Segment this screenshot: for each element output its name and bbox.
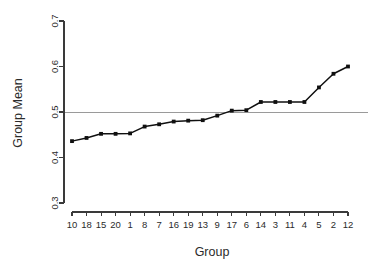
x-tick-label: 14 — [256, 219, 267, 230]
x-tick-label: 16 — [168, 219, 179, 230]
group-mean-line-chart: 0.30.40.50.60.7 101815201871619139176143… — [0, 0, 372, 269]
data-point-marker — [85, 136, 89, 140]
x-tick-label: 2 — [331, 219, 336, 230]
x-tick-label: 13 — [197, 219, 208, 230]
data-point-marker — [186, 119, 190, 123]
data-point-marker — [288, 100, 292, 104]
data-point-marker — [346, 65, 350, 69]
y-tick-label: 0.3 — [49, 196, 60, 209]
x-tick-label: 19 — [183, 219, 194, 230]
data-point-marker — [317, 86, 321, 90]
x-axis-title: Group — [195, 245, 230, 259]
data-point-marker — [273, 100, 277, 104]
y-tick-label: 0.4 — [49, 151, 60, 164]
x-tick-label: 18 — [81, 219, 92, 230]
x-tick-label: 11 — [285, 219, 295, 230]
x-tick-label: 7 — [157, 219, 162, 230]
data-point-marker — [201, 118, 205, 122]
x-tick-label: 3 — [273, 219, 278, 230]
y-tick-label: 0.6 — [49, 60, 60, 73]
data-point-marker — [172, 120, 176, 124]
data-point-marker — [332, 72, 336, 76]
data-point-marker — [114, 132, 118, 136]
data-point-marker — [244, 108, 248, 112]
data-point-marker — [70, 139, 74, 143]
data-point-marker — [259, 100, 263, 104]
x-tick-label: 9 — [215, 219, 220, 230]
data-point-marker — [157, 122, 161, 126]
data-point-marker — [143, 125, 147, 129]
y-tick-label: 0.7 — [49, 14, 60, 27]
data-point-marker — [215, 114, 219, 118]
data-point-marker — [230, 109, 234, 113]
x-tick-label: 5 — [316, 219, 321, 230]
x-tick-label: 17 — [227, 219, 238, 230]
x-tick-label: 6 — [244, 219, 249, 230]
data-point-marker — [303, 100, 307, 104]
x-tick-label: 10 — [67, 219, 78, 230]
y-axis-title: Group Mean — [11, 78, 25, 148]
x-tick-label: 8 — [142, 219, 147, 230]
x-tick-label: 4 — [302, 219, 307, 230]
x-tick-label: 12 — [343, 219, 354, 230]
chart-container: 0.30.40.50.60.7 101815201871619139176143… — [0, 0, 372, 269]
x-tick-label: 15 — [96, 219, 107, 230]
data-point-marker — [128, 131, 132, 135]
x-tick-label: 20 — [110, 219, 121, 230]
data-point-marker — [99, 132, 103, 136]
y-tick-label: 0.5 — [49, 105, 60, 118]
x-tick-label: 1 — [127, 219, 132, 230]
